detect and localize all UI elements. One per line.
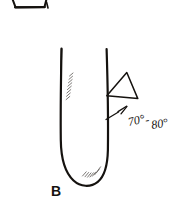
diagram-svg: 70° - 80° B — [0, 0, 187, 210]
sketch-canvas: 70° - 80° B — [0, 0, 187, 210]
canvas-background — [0, 0, 187, 210]
vessel-label-b: B — [51, 183, 61, 199]
angle-value-max: 80° — [150, 115, 169, 132]
